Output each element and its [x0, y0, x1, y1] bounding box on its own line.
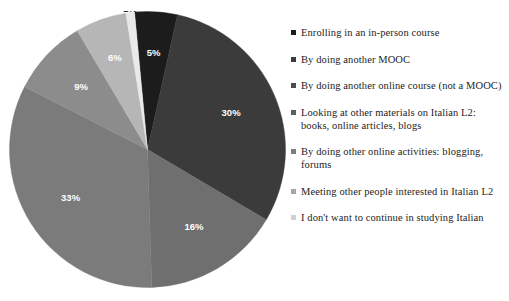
chart-legend: Enrolling in an in-person courseBy doing…	[291, 26, 506, 238]
legend-item[interactable]: By doing another MOOC	[291, 53, 506, 66]
legend-item-label: By doing other online activities: bloggi…	[301, 145, 483, 171]
legend-item[interactable]: Meeting other people interested in Itali…	[291, 185, 506, 198]
legend-swatch-icon	[291, 189, 296, 194]
pie-slice-value-label: 1%	[123, 11, 137, 14]
legend-swatch-icon	[291, 110, 296, 115]
pie-slice-value-label: 6%	[108, 52, 122, 63]
legend-item-label: Looking at other materials on Italian L2…	[301, 106, 476, 132]
legend-item-label: By doing another online course (not a MO…	[301, 79, 502, 92]
legend-item-label: By doing another MOOC	[301, 53, 410, 66]
legend-item-label: Meeting other people interested in Itali…	[301, 185, 493, 198]
legend-swatch-icon	[291, 83, 296, 88]
legend-item[interactable]: I don't want to continue in studying Ita…	[291, 211, 506, 224]
pie-slice-value-label: 9%	[74, 81, 88, 92]
legend-swatch-icon	[291, 149, 296, 154]
legend-item[interactable]: By doing other online activities: bloggi…	[291, 145, 506, 171]
pie-plot-area: 5%30%16%33%9%6%1%	[9, 11, 286, 288]
pie-slice-value-label: 5%	[147, 47, 161, 58]
pie-slice-value-label: 33%	[61, 192, 81, 203]
legend-item[interactable]: Enrolling in an in-person course	[291, 26, 506, 39]
legend-swatch-icon	[291, 57, 296, 62]
pie-slice-value-label: 30%	[222, 107, 242, 118]
pie-svg: 5%30%16%33%9%6%1%	[9, 11, 286, 288]
legend-item-label: Enrolling in an in-person course	[301, 26, 440, 39]
pie-slice-value-label: 16%	[184, 221, 204, 232]
legend-swatch-icon	[291, 30, 296, 35]
legend-item-label: I don't want to continue in studying Ita…	[301, 211, 484, 224]
legend-item[interactable]: Looking at other materials on Italian L2…	[291, 106, 506, 132]
legend-item[interactable]: By doing another online course (not a MO…	[291, 79, 506, 92]
legend-swatch-icon	[291, 215, 296, 220]
pie-chart-figure: 5%30%16%33%9%6%1% Enrolling in an in-per…	[0, 0, 509, 301]
